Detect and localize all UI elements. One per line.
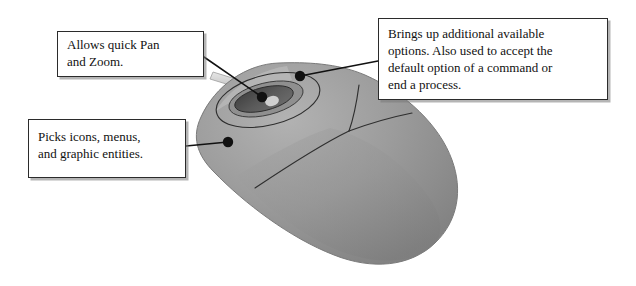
dot-left-button [223,137,233,147]
callout-pick-icons-text: Picks icons, menus, and graphic entities… [38,129,185,163]
callout-pick-icons: Picks icons, menus, and graphic entities… [28,119,186,178]
dot-scroll-wheel [257,92,267,102]
callout-pan-zoom: Allows quick Pan and Zoom. [57,31,204,77]
dot-right-button [295,71,305,81]
callout-additional-options-text: Brings up additional available options. … [388,26,607,94]
figure-canvas: Allows quick Pan and Zoom. Picks icons, … [0,0,636,286]
callout-additional-options: Brings up additional available options. … [378,18,608,100]
callout-pan-zoom-text: Allows quick Pan and Zoom. [67,37,203,71]
